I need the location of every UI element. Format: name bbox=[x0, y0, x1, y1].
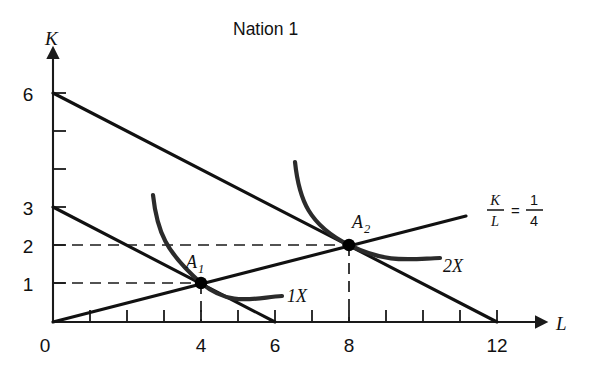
x-tick-label-0: 0 bbox=[40, 335, 51, 356]
ratio-equals-sign: = bbox=[511, 202, 520, 219]
x-axis-label: L bbox=[555, 313, 567, 334]
x-tick-label-6: 6 bbox=[270, 335, 281, 356]
point-a2-label: A bbox=[351, 212, 364, 232]
point-a1-label: A bbox=[185, 252, 198, 272]
x-tick-label-4: 4 bbox=[196, 335, 207, 356]
ratio-value-denominator: 4 bbox=[530, 213, 538, 229]
point-a1-marker bbox=[195, 277, 207, 289]
y-axis-label: K bbox=[44, 28, 59, 49]
y-tick-label-1: 1 bbox=[23, 274, 34, 295]
x-tick-label-12: 12 bbox=[486, 335, 507, 356]
nation-1-isoquant-diagram: Nation 1 K L 6 3 2 1 0 4 6 8 1 bbox=[0, 0, 594, 372]
ratio-denominator-l: L bbox=[490, 213, 499, 229]
y-tick-label-2: 2 bbox=[23, 236, 34, 257]
point-a1-sublabel: 1 bbox=[198, 262, 204, 276]
x-tick-label-8: 8 bbox=[344, 335, 355, 356]
isoquant-1x-label: 1X bbox=[287, 286, 308, 306]
y-tick-label-3: 3 bbox=[23, 198, 34, 219]
point-a2-sublabel: 2 bbox=[364, 222, 370, 236]
ratio-value-numerator: 1 bbox=[530, 192, 538, 208]
y-tick-label-6: 6 bbox=[23, 84, 34, 105]
isoquant-2x-label: 2X bbox=[443, 256, 464, 276]
point-a2-marker bbox=[343, 239, 355, 251]
ratio-numerator-k: K bbox=[489, 192, 501, 208]
chart-title: Nation 1 bbox=[233, 19, 298, 39]
